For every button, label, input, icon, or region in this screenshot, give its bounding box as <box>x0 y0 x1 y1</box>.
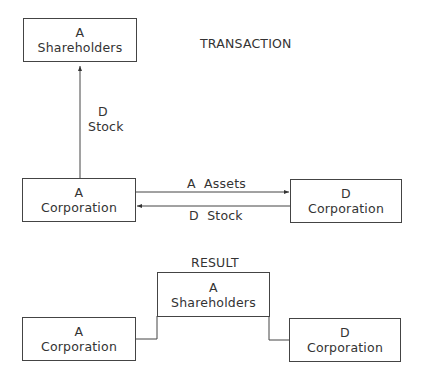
result-a-corporation-box: A Corporation <box>22 317 136 361</box>
box-entity-letter: A <box>75 324 84 339</box>
box-entity-type: Corporation <box>308 201 384 216</box>
result-a-shareholders-box: A Shareholders <box>157 272 270 317</box>
left-arrow-label: D Stock <box>189 208 243 223</box>
transaction-a-corporation-box: A Corporation <box>22 178 136 222</box>
right-arrow-label: A Assets <box>187 176 246 191</box>
box-entity-letter: A <box>75 185 84 200</box>
box-entity-type: Corporation <box>307 340 383 355</box>
box-entity-letter: D <box>341 186 351 201</box>
label-line-1: D <box>88 104 118 119</box>
box-entity-type: Corporation <box>41 339 117 354</box>
result-connector-d-corp <box>269 316 289 340</box>
box-entity-letter: A <box>76 25 85 40</box>
vertical-arrow-label: D Stock <box>88 104 118 134</box>
box-entity-letter: D <box>340 325 350 340</box>
transaction-a-shareholders-box: A Shareholders <box>23 18 137 62</box>
result-connector-a-corp <box>136 316 157 339</box>
box-entity-letter: A <box>209 280 218 295</box>
label-line-2: Stock <box>88 119 118 134</box>
result-d-corporation-box: D Corporation <box>289 318 401 362</box>
transaction-d-corporation-box: D Corporation <box>290 179 402 223</box>
box-entity-type: Shareholders <box>171 295 256 310</box>
box-entity-type: Corporation <box>41 200 117 215</box>
box-entity-type: Shareholders <box>38 40 123 55</box>
transaction-title: TRANSACTION <box>200 36 292 51</box>
result-title: RESULT <box>191 255 239 270</box>
